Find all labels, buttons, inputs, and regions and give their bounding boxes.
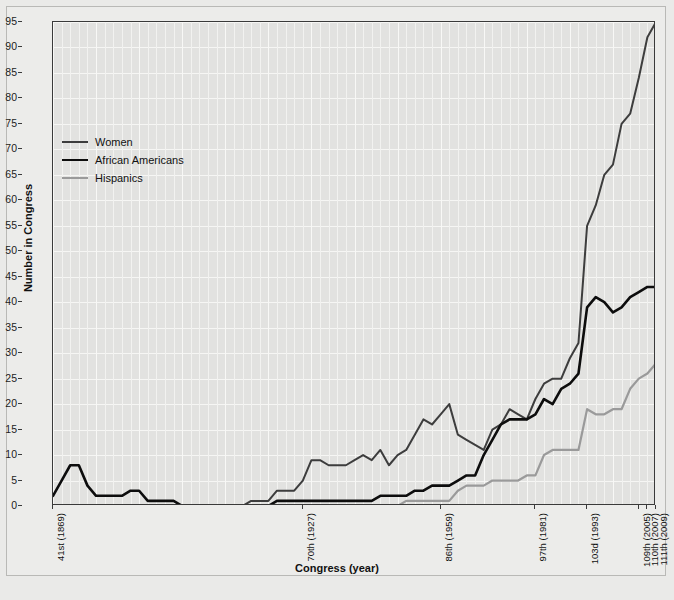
legend-swatch-icon — [62, 141, 88, 143]
y-tick-label: 50 — [5, 245, 17, 256]
chart-page: Number in Congress 051015202530354045505… — [0, 0, 674, 600]
legend-item-women: Women — [62, 134, 184, 150]
plot-area — [52, 21, 655, 505]
x-tick-label: 111th (2009) — [659, 513, 669, 565]
legend-label: African Americans — [95, 155, 184, 166]
legend-swatch-icon — [62, 159, 88, 161]
x-tick-mark — [52, 505, 53, 509]
y-tick-label: 85 — [5, 67, 17, 78]
y-tick-label: 35 — [5, 321, 17, 332]
x-tick-mark — [302, 505, 303, 509]
y-tick-mark — [18, 378, 22, 379]
y-tick-mark — [18, 301, 22, 302]
x-tick-mark — [646, 505, 647, 509]
y-tick-label: 90 — [5, 41, 17, 52]
y-tick-mark — [18, 72, 22, 73]
legend-label: Hispanics — [95, 173, 143, 184]
y-tick-label: 45 — [5, 270, 17, 281]
y-tick-label: 5 — [11, 474, 17, 485]
series-line-women — [53, 22, 655, 505]
y-tick-mark — [18, 225, 22, 226]
x-tick-label: 70th (1927) — [306, 513, 316, 562]
series-svg — [53, 22, 655, 505]
y-tick-mark — [18, 21, 22, 22]
y-tick-label: 55 — [5, 220, 17, 231]
y-tick-mark — [18, 352, 22, 353]
y-axis-ticks: 05101520253035404550556065707580859095 — [0, 0, 52, 526]
y-tick-label: 15 — [5, 423, 17, 434]
y-tick-mark — [18, 97, 22, 98]
y-tick-mark — [18, 46, 22, 47]
y-tick-label: 10 — [5, 449, 17, 460]
x-tick-mark — [638, 505, 639, 509]
y-tick-mark — [18, 250, 22, 251]
y-tick-mark — [18, 454, 22, 455]
y-tick-mark — [18, 429, 22, 430]
x-tick-mark — [655, 505, 656, 509]
y-tick-mark — [18, 148, 22, 149]
series-line-hispanics — [53, 353, 655, 505]
y-tick-label: 75 — [5, 118, 17, 129]
x-axis-ticks: 41st (1869)70th (1927)86th (1959)97th (1… — [0, 505, 674, 565]
legend-item-african-americans: African Americans — [62, 152, 184, 168]
y-tick-mark — [18, 403, 22, 404]
series-layer — [53, 22, 654, 504]
x-axis-title: Congress (year) — [0, 562, 674, 574]
y-tick-mark — [18, 199, 22, 200]
y-tick-label: 40 — [5, 296, 17, 307]
y-tick-label: 65 — [5, 169, 17, 180]
legend-item-hispanics: Hispanics — [62, 170, 184, 186]
x-tick-mark — [534, 505, 535, 509]
x-tick-label: 86th (1959) — [444, 513, 454, 562]
y-tick-label: 95 — [5, 16, 17, 27]
legend-label: Women — [95, 137, 133, 148]
x-tick-mark — [440, 505, 441, 509]
y-tick-mark — [18, 276, 22, 277]
y-tick-mark — [18, 327, 22, 328]
chart-legend: WomenAfrican AmericansHispanics — [62, 134, 184, 188]
y-tick-label: 20 — [5, 398, 17, 409]
x-tick-label: 41st (1869) — [56, 513, 66, 561]
y-tick-mark — [18, 123, 22, 124]
x-tick-label: 103d (1993) — [590, 513, 600, 564]
y-tick-label: 60 — [5, 194, 17, 205]
series-line-african-americans — [53, 287, 655, 505]
y-tick-label: 70 — [5, 143, 17, 154]
x-tick-mark — [586, 505, 587, 509]
y-tick-mark — [18, 174, 22, 175]
y-tick-label: 30 — [5, 347, 17, 358]
y-tick-mark — [18, 480, 22, 481]
x-tick-label: 97th (1981) — [538, 513, 548, 562]
y-tick-label: 80 — [5, 92, 17, 103]
legend-swatch-icon — [62, 177, 88, 179]
y-tick-label: 25 — [5, 372, 17, 383]
